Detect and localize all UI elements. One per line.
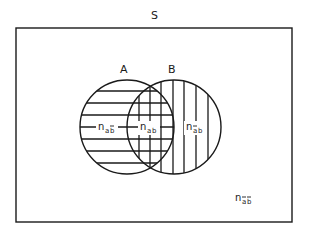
svg-text:b: b — [110, 127, 115, 135]
svg-text:b: b — [198, 127, 203, 135]
svg-text:a: a — [105, 127, 109, 135]
venn-diagram: S A B nabnabnabnab — [0, 0, 309, 235]
svg-text:n: n — [235, 192, 241, 203]
svg-text:b: b — [152, 127, 157, 135]
set-b-label: B — [168, 63, 176, 76]
svg-text:n: n — [186, 121, 192, 132]
set-a-label: A — [120, 63, 128, 76]
universe-label: S — [151, 9, 158, 22]
svg-text:a: a — [242, 198, 246, 206]
svg-text:b: b — [247, 198, 252, 206]
svg-text:n: n — [140, 121, 146, 132]
svg-text:a: a — [193, 127, 197, 135]
svg-text:n: n — [98, 121, 104, 132]
svg-text:a: a — [147, 127, 151, 135]
